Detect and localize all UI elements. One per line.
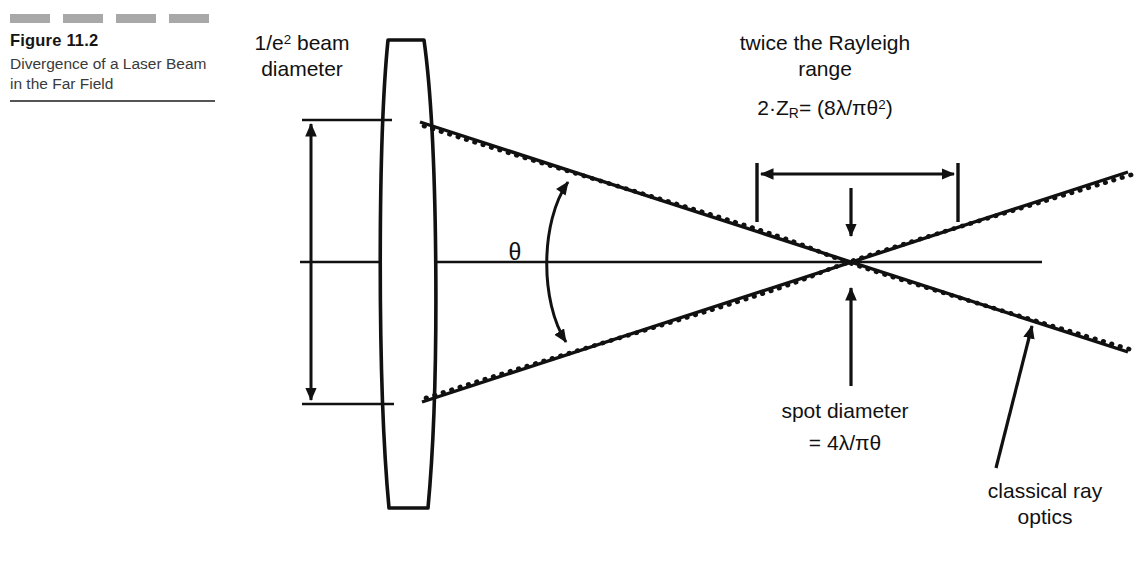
label-beam-diameter: 1/e2 beam diameter <box>232 30 372 81</box>
label-rayleigh-formula: 2·ZR= (8λ/πθ2) <box>700 95 950 122</box>
label-rayleigh-range: twice the Rayleigh range <box>700 30 950 81</box>
biconvex-lens <box>380 40 436 508</box>
figure-page: Figure 11.2 Divergence of a Laser Beam i… <box>0 0 1145 568</box>
rayleigh-line1: twice the Rayleigh <box>740 31 910 54</box>
classical-line2: optics <box>1018 505 1073 528</box>
label-spot-diameter: spot diameter <box>745 398 945 424</box>
gaussian-envelope-upper <box>424 126 1132 350</box>
rayleigh-line2: range <box>798 57 852 80</box>
label-classical-ray-optics: classical ray optics <box>960 478 1130 529</box>
classical-line1: classical ray <box>988 479 1102 502</box>
classical-ray-optics-pointer-arrow <box>996 326 1032 468</box>
label-spot-diameter-formula: = 4λ/πθ <box>745 430 945 456</box>
beam-diameter-line2: diameter <box>261 57 343 80</box>
label-divergence-angle: θ <box>500 238 530 266</box>
beam-diameter-line1: 1/e2 beam <box>254 31 349 54</box>
